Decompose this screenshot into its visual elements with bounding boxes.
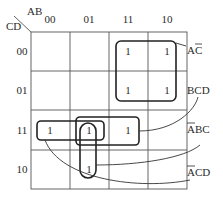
cell-r2-c1: 1	[86, 124, 92, 136]
col-header-11: 11	[123, 13, 134, 25]
cell-r1-c3: 1	[164, 84, 170, 96]
leader-ac-bar	[176, 43, 186, 46]
cell-r3-c1: 1	[86, 163, 92, 175]
col-header-10: 10	[162, 13, 174, 25]
svg-text:ACD: ACD	[187, 166, 210, 178]
svg-text:ABC: ABC	[187, 123, 210, 135]
col-header-01: 01	[84, 13, 95, 25]
cell-r0-c3: 1	[164, 45, 170, 57]
row-header-00: 00	[17, 45, 29, 57]
col-variable-label: AB	[27, 5, 42, 17]
cell-r2-c2: 1	[125, 124, 131, 136]
svg-text:AC: AC	[187, 44, 202, 56]
term-label-abar-bc: ABC	[187, 123, 210, 135]
karnaugh-map: AB CD 00 01 11 10 00 01 11 10 1 1 1 1 1 …	[0, 0, 223, 204]
cell-r1-c2: 1	[125, 84, 131, 96]
cell-r2-c0: 1	[47, 124, 53, 136]
row-header-11: 11	[17, 124, 28, 136]
term-label-ac-bar: AC	[187, 44, 202, 56]
term-label-abar-cd: ACD	[187, 166, 210, 178]
row-header-10: 10	[17, 163, 29, 175]
cell-r0-c2: 1	[125, 45, 131, 57]
col-header-00: 00	[45, 13, 57, 25]
row-variable-label: CD	[6, 20, 21, 32]
svg-text:BCD: BCD	[187, 84, 210, 96]
leader-abar-cd	[45, 140, 190, 184]
term-label-bcd: BCD	[187, 84, 210, 96]
row-header-01: 01	[17, 84, 28, 96]
